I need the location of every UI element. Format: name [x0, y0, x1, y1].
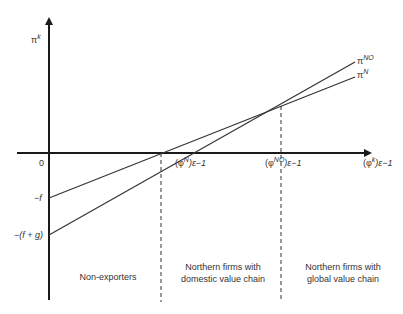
- threshold-phi-n-label: (φN)ε−1: [175, 156, 206, 168]
- pi-n-line: [49, 77, 355, 198]
- intercept-minus-f-label: −f: [34, 194, 42, 203]
- region-non-exporters: Non-exporters: [58, 271, 158, 283]
- y-axis-label: πk: [31, 33, 41, 45]
- pi-n-label: πN: [357, 68, 368, 80]
- pi-no-line: [49, 62, 355, 235]
- region-global-value-chain: Northern firms with global value chain: [293, 261, 393, 285]
- intercept-minus-f-plus-g-label: −(f + g): [14, 231, 43, 240]
- x-axis-end-label: (φk)ε−1: [363, 156, 393, 168]
- origin-label: 0: [39, 159, 44, 168]
- region-domestic-value-chain: Northern firms with domestic value chain: [173, 261, 273, 285]
- threshold-phi-no-label: (φNO)ε−1: [265, 156, 302, 168]
- pi-no-label: πNO: [357, 54, 374, 66]
